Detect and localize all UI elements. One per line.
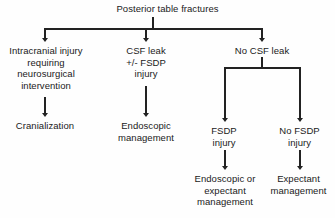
node-expectant-management: Expectant management (262, 173, 335, 196)
arrowhead-expectant-management (297, 166, 303, 170)
connector-level1-bar (44, 28, 263, 30)
arrowhead-level1-left (42, 38, 48, 42)
connector-level2-bar (224, 67, 301, 69)
node-root: Posterior table fractures (95, 3, 240, 15)
arrowhead-endoscopic-or-expectant (222, 166, 228, 170)
connector-fsdp-to-endoscopic-expectant (224, 150, 226, 167)
flowchart-diagram: Posterior table fractures Intracranial i… (0, 0, 335, 218)
connector-csf-to-endoscopic (145, 86, 147, 114)
node-cranialization: Cranialization (5, 120, 85, 132)
node-intracranial-injury: Intracranial injury requiring neurosurgi… (0, 45, 92, 91)
arrowhead-no-fsdp-injury (297, 118, 303, 122)
connector-intracranial-to-cranialization (44, 97, 46, 114)
node-endoscopic-management: Endoscopic management (105, 120, 187, 143)
node-endoscopic-or-expectant-management: Endoscopic or expectant management (187, 173, 263, 208)
node-fsdp-injury: FSDP injury (192, 125, 256, 148)
node-no-csf-leak: No CSF leak (218, 45, 306, 57)
arrowhead-endoscopic-management (143, 113, 149, 117)
node-no-fsdp-injury: No FSDP injury (266, 125, 333, 148)
connector-no-fsdp-to-expectant (299, 150, 301, 167)
connector-level2-right (299, 67, 301, 119)
arrowhead-cranialization (42, 113, 48, 117)
node-csf-leak: CSF leak +/- FSDP injury (103, 45, 189, 80)
connector-level2-left (224, 67, 226, 119)
arrowhead-fsdp-injury (222, 118, 228, 122)
arrowhead-level1-middle (143, 38, 149, 42)
arrowhead-level1-right (259, 38, 265, 42)
